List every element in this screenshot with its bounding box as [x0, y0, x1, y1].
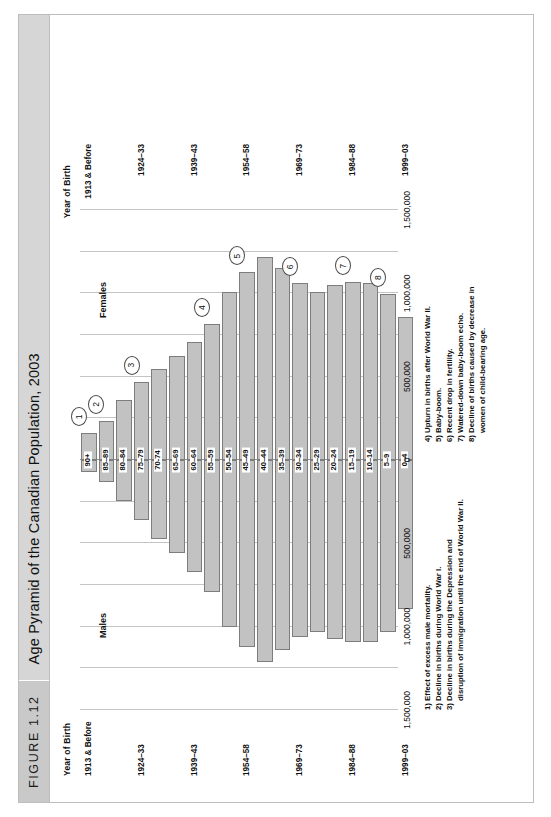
- callout-marker-8: 8: [370, 268, 386, 287]
- callout-marker-4: 4: [194, 298, 210, 317]
- x-axis-ticks: 1,500,0001,000,000500,0000500,0001,000,0…: [402, 210, 416, 710]
- figure-number: FIGURE 1.12: [19, 680, 49, 802]
- males-caption: Males: [98, 613, 108, 638]
- callout-marker-5: 5: [229, 247, 245, 266]
- figure-note: 4) Upturn in births after World War II.: [422, 192, 433, 442]
- year-of-birth-tick-right: 1924–33: [137, 144, 146, 176]
- figure-note: 7) Watered-down baby-boom echo.: [455, 192, 466, 442]
- notes-right-column: 4) Upturn in births after World War II.5…: [422, 192, 488, 442]
- x-tick-label: 1,000,000: [402, 274, 412, 312]
- figure-note: disruption of immigration until the end …: [455, 460, 466, 710]
- figure-note: 1) Effect of excess male mortality.: [422, 460, 433, 710]
- year-of-birth-tick-right: 1999–03: [401, 144, 410, 176]
- x-tick-label: 500,000: [402, 361, 412, 392]
- figure-note: women of child-bearing age.: [477, 192, 488, 442]
- callout-marker-7: 7: [335, 257, 351, 276]
- year-of-birth-tick-left: 1913 & Before: [84, 721, 93, 776]
- pyramid-plot: 90+1913 & Before1913 & Before85–8980–847…: [80, 210, 398, 710]
- figure-note: 8) Decline of births caused by decrease …: [466, 192, 477, 442]
- callout-marker-3: 3: [124, 356, 140, 375]
- year-of-birth-label-right: Year of Birth: [62, 165, 72, 218]
- figure-note: 2) Decline in births during World War I.: [433, 460, 444, 710]
- x-tick-label: 1,000,000: [402, 608, 412, 646]
- year-of-birth-tick-left: 1954–58: [242, 744, 251, 776]
- callout-marker-2: 2: [88, 395, 104, 414]
- year-of-birth-tick-left: 1984–88: [348, 744, 357, 776]
- x-tick-label: 1,500,000: [402, 191, 412, 229]
- figure-note: 5) Baby-boom.: [433, 192, 444, 442]
- callout-marker-6: 6: [282, 257, 298, 276]
- figure-card: FIGURE 1.12 Age Pyramid of the Canadian …: [18, 14, 534, 803]
- year-of-birth-label-left: Year of Birth: [62, 723, 72, 776]
- x-tick-label: 0: [402, 458, 412, 463]
- figure-title: Age Pyramid of the Canadian Population, …: [19, 15, 49, 680]
- year-of-birth-tick-right: 1913 & Before: [84, 144, 93, 199]
- year-of-birth-tick-right: 1954–58: [242, 144, 251, 176]
- figure-page: FIGURE 1.12 Age Pyramid of the Canadian …: [0, 0, 551, 817]
- figure-title-bar: FIGURE 1.12 Age Pyramid of the Canadian …: [19, 15, 50, 802]
- notes-left-column: 1) Effect of excess male mortality.2) De…: [422, 460, 466, 710]
- callout-marker-1: 1: [71, 407, 87, 426]
- females-caption: Females: [98, 282, 108, 318]
- year-of-birth-tick-left: 1924–33: [137, 744, 146, 776]
- callout-layer: 12345678: [80, 210, 398, 710]
- figure-note: 6) Recent drop in fertility.: [444, 192, 455, 442]
- x-tick-label: 1,500,000: [402, 691, 412, 729]
- year-of-birth-tick-right: 1984–88: [348, 144, 357, 176]
- rotated-figure-wrapper: FIGURE 1.12 Age Pyramid of the Canadian …: [0, 0, 551, 817]
- year-of-birth-tick-right: 1969–73: [295, 144, 304, 176]
- year-of-birth-tick-left: 1999–03: [401, 744, 410, 776]
- year-of-birth-tick-right: 1939–43: [190, 144, 199, 176]
- year-of-birth-tick-left: 1939–43: [190, 744, 199, 776]
- figure-note: 3) Decline in births during the Depressi…: [444, 460, 455, 710]
- x-tick-label: 500,000: [402, 528, 412, 559]
- figure-body: Year of Birth Year of Birth 90+1913 & Be…: [50, 15, 535, 802]
- year-of-birth-tick-left: 1969–73: [295, 744, 304, 776]
